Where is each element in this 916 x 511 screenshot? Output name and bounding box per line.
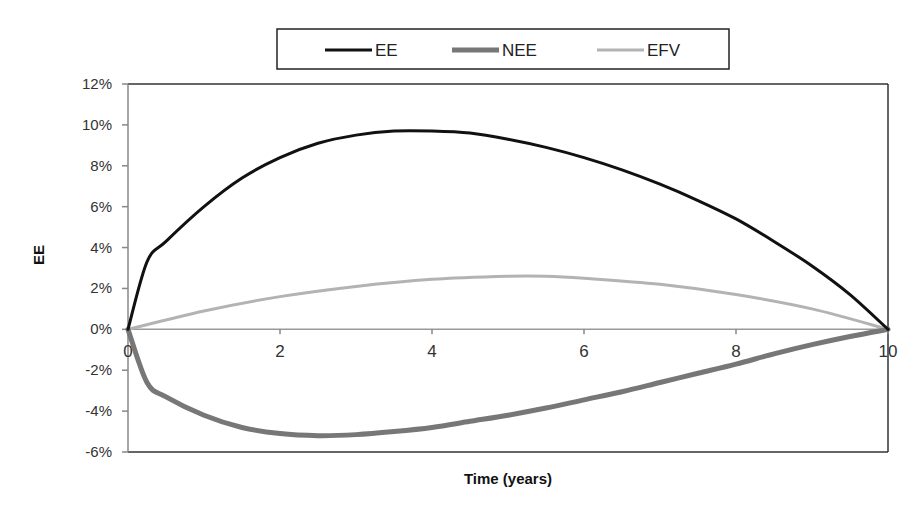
chart: EENEEEFV 12%10%8%6%4%2%0%-2%-4%-6% 02468… [0,0,916,511]
x-tick-label: 10 [879,342,898,361]
legend-label: EFV [647,41,681,60]
y-tick-label: 0% [90,320,112,337]
y-tick-label: -6% [85,443,112,460]
x-axis-title: Time (years) [464,470,552,487]
plot-area: 12%10%8%6%4%2%0%-2%-4%-6% 0246810 [82,75,897,460]
legend-label: EE [375,41,398,60]
x-tick-label: 4 [427,342,436,361]
x-tick-label: 8 [731,342,740,361]
y-tick-label: 4% [90,239,112,256]
legend: EENEEEFV [277,29,729,69]
x-tick-label: 6 [579,342,588,361]
y-tick-label: 12% [82,75,112,92]
y-tick-label: 2% [90,279,112,296]
y-tick-label: 6% [90,198,112,215]
y-tick-label: 8% [90,157,112,174]
y-tick-label: -2% [85,361,112,378]
y-ticks: 12%10%8%6%4%2%0%-2%-4%-6% [82,75,128,460]
legend-label: NEE [502,41,537,60]
y-tick-label: 10% [82,116,112,133]
y-tick-label: -4% [85,402,112,419]
x-tick-label: 2 [275,342,284,361]
y-axis-title: EE [30,245,47,265]
